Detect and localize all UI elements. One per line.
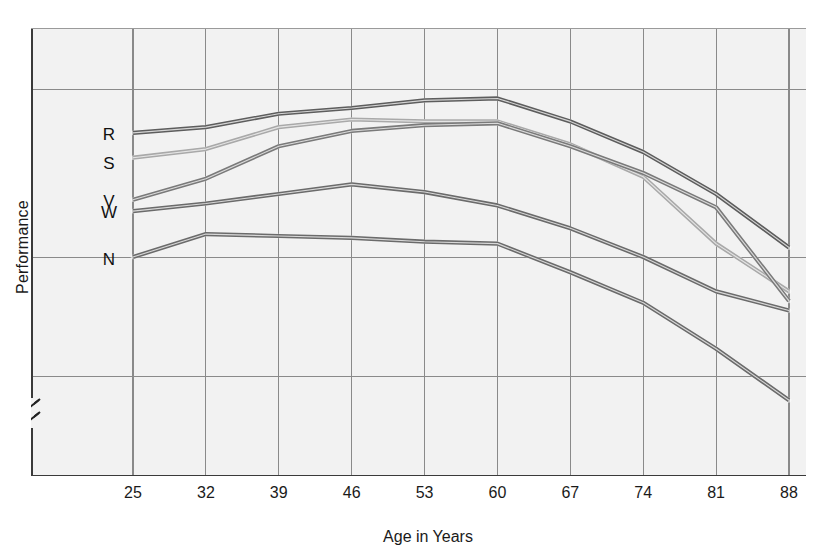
- chart-figure: Performance 25323946536067748188 RSVWN A…: [0, 0, 820, 552]
- x-axis-tick-labels: 25323946536067748188: [31, 484, 806, 510]
- x-axis-title-text: Age in Years: [383, 528, 473, 545]
- x-tick-53: 53: [416, 484, 434, 502]
- x-tick-46: 46: [343, 484, 361, 502]
- x-axis-title: Age in Years: [0, 528, 820, 546]
- x-tick-74: 74: [634, 484, 652, 502]
- line-chart-svg: [31, 28, 806, 476]
- x-tick-32: 32: [197, 484, 215, 502]
- y-axis-title: Performance: [14, 162, 32, 332]
- x-tick-88: 88: [780, 484, 798, 502]
- x-tick-67: 67: [561, 484, 579, 502]
- x-tick-25: 25: [124, 484, 142, 502]
- x-tick-81: 81: [707, 484, 725, 502]
- x-tick-60: 60: [489, 484, 507, 502]
- x-tick-39: 39: [270, 484, 288, 502]
- plot-area: [31, 28, 806, 476]
